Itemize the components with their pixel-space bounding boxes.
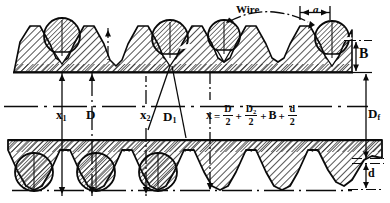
dimension-B-label: B (359, 47, 368, 61)
arrow-B-down (353, 65, 359, 72)
dimension-D-label: D (86, 108, 95, 121)
term4-denominator: 2 (289, 116, 296, 127)
arrow-a-left (302, 10, 309, 16)
arrow-x1-top (59, 74, 65, 81)
dimension-d-label: d (368, 167, 375, 179)
dimension-a-label: a (313, 4, 319, 15)
term2-numerator: D2 (245, 104, 257, 115)
term2-denominator: 2 (248, 116, 255, 127)
arrow-D-top (89, 74, 95, 81)
wire-label: Wire (236, 4, 259, 15)
formula-plus-2: + (259, 110, 267, 122)
arrow-Df-up (363, 74, 369, 81)
formula-equals: = (213, 110, 221, 122)
formula-plus-1: + (235, 110, 243, 122)
formula-term-4: d 2 (288, 104, 297, 127)
term4-numerator: d (289, 104, 297, 115)
formula-term-3: B (269, 108, 277, 123)
x2-subscript: 2 (147, 114, 151, 123)
dimension-x2-label: x2 (140, 108, 151, 121)
leader-D1-diagonal (172, 66, 186, 138)
formula-term-1: D 2 (223, 104, 232, 127)
measurement-formula: x = D 2 + D2 2 + B + d 2 (206, 104, 298, 127)
x1-base: x (56, 107, 63, 122)
dimension-Df-label: Df (368, 107, 380, 120)
dimension-x1-label: x1 (56, 108, 67, 121)
arrow-a-right (321, 10, 328, 16)
term1-numerator: D (223, 104, 232, 115)
formula-plus-3: + (278, 110, 286, 122)
arrow-d-down (363, 182, 369, 188)
D1-subscript: 1 (172, 116, 176, 125)
diagram-canvas (0, 0, 390, 203)
formula-lhs: x (206, 108, 212, 123)
thread-measurement-diagram: Wire a B d x1 D x2 D1 Df x = D 2 + D2 2 … (0, 0, 390, 203)
lower-member-top-hatch (8, 140, 382, 152)
tick-arrow-upper-groove (105, 30, 111, 37)
dimension-D1-label: D1 (163, 110, 176, 123)
term2-num-base: D (246, 103, 253, 114)
term2-num-subscript: 2 (253, 108, 256, 115)
D1-base: D (163, 109, 172, 124)
x1-subscript: 1 (63, 114, 67, 123)
term1-denominator: 2 (224, 116, 231, 127)
x2-base: x (140, 107, 147, 122)
lower-threaded-member (8, 140, 382, 190)
Df-subscript: f (377, 113, 380, 122)
Df-base: D (368, 106, 377, 121)
formula-term-2: D2 2 (245, 104, 257, 127)
